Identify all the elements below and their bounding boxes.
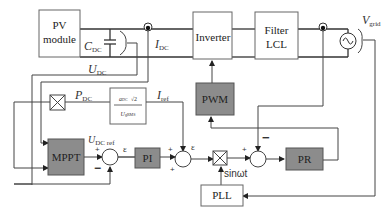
filter-lcl-block: Filter LCL: [255, 12, 298, 59]
p-dc-label: PDC: [74, 88, 92, 103]
sum1-minus-sign: −: [94, 161, 101, 175]
grid-current-sensor-icon: [319, 23, 327, 31]
mppt-label: MPPT: [52, 151, 81, 163]
filter-label-1: Filter: [265, 24, 289, 36]
mppt-block: MPPT: [48, 139, 84, 175]
sinwt-multiplier-icon: [213, 151, 227, 165]
u-dc-label: UDC: [88, 62, 107, 77]
voltage-sensor-icon: [120, 31, 126, 55]
i-dc-label: IDC: [154, 37, 169, 52]
ac-source-icon: [340, 33, 356, 49]
fraction-denominator: UgRMS: [121, 111, 136, 117]
pwm-block: PWM: [196, 83, 234, 115]
summing-junction-1: [102, 149, 118, 165]
pr-label: PR: [298, 153, 312, 165]
sum1-plus-sign: +: [95, 145, 100, 154]
sum2-plus-bottom: +: [170, 165, 175, 174]
pv-module-label-1: PV: [52, 19, 66, 31]
inverter-block: Inverter: [193, 12, 232, 59]
fraction-block: aDC√2 UgRMS: [110, 88, 146, 124]
c-dc-label: CDC: [84, 39, 102, 54]
sum2-plus-left: +: [168, 145, 173, 154]
pi-label: PI: [143, 152, 153, 164]
grid-voltage-sensor-icon: [358, 29, 362, 53]
sum3-minus-sign: −: [262, 130, 270, 145]
current-sensor-icon: [144, 23, 152, 31]
v-grid-label: Vgrid: [362, 13, 381, 28]
summing-junction-2: [175, 151, 191, 167]
inverter-label: Inverter: [196, 31, 231, 43]
pv-module-block: PV module: [39, 10, 80, 57]
control-diagram: PV module CDC UDC IDC Inverter Filter LC…: [0, 0, 386, 216]
filter-label-2: LCL: [266, 38, 287, 50]
i-ref-label: Iref: [156, 88, 169, 103]
pv-module-label-2: module: [43, 33, 76, 45]
pdc-multiplier-icon: [50, 95, 65, 110]
summing-junction-3: [250, 151, 266, 167]
pwm-label: PWM: [202, 93, 229, 105]
pi-block: PI: [135, 148, 160, 168]
pll-block: PLL: [201, 185, 243, 206]
capacitor-icon: [104, 29, 116, 57]
v-grid-feedback-wire: [243, 40, 375, 196]
sinwt-label: sinωt: [224, 168, 248, 179]
u-dc-ref-label: UDC ref: [88, 134, 115, 147]
sum3-plus-sign: +: [242, 145, 247, 154]
epsilon1-label: ε: [123, 144, 127, 154]
pr-block: PR: [286, 148, 323, 170]
pll-label: PLL: [212, 189, 232, 201]
i-ref-wire: [146, 102, 183, 151]
epsilon2-label: ε: [191, 142, 195, 152]
